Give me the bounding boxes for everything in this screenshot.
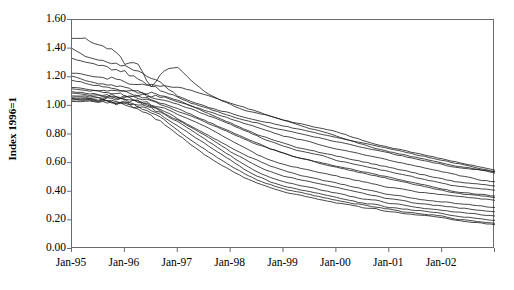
y-tick-label: 0.60 (32, 156, 66, 168)
y-tick-label: 1.60 (32, 13, 66, 25)
series-line (72, 38, 495, 170)
x-axis-tick-labels: Jan-95Jan-96Jan-97Jan-98Jan-99Jan-00Jan-… (0, 252, 514, 274)
x-tick-label: Jan-97 (147, 256, 207, 268)
y-tick-label: 1.00 (32, 99, 66, 111)
y-axis-title-text: Index 1996=1 (6, 97, 18, 160)
x-tick-label: Jan-00 (305, 256, 365, 268)
x-tick-label: Jan-98 (200, 256, 260, 268)
plot-area (71, 19, 494, 248)
y-tick-label: 1.20 (32, 70, 66, 82)
x-tick-label: Jan-99 (253, 256, 313, 268)
series-line (72, 93, 495, 200)
y-axis-title: Index 1996=1 (2, 0, 22, 258)
series-line (72, 101, 495, 225)
series-line (72, 99, 495, 217)
series-line (72, 99, 495, 221)
y-tick-label: 1.40 (32, 42, 66, 54)
x-tick-label: Jan-01 (358, 256, 418, 268)
series-lines (72, 20, 495, 249)
y-tick-label: 0.40 (32, 185, 66, 197)
x-tick-label: Jan-96 (94, 256, 154, 268)
y-tick-label: 0.80 (32, 128, 66, 140)
series-line (72, 73, 495, 171)
series-line (72, 97, 495, 212)
x-tick-label: Jan-95 (41, 256, 101, 268)
series-line (72, 87, 495, 190)
series-line (72, 96, 495, 208)
x-tick-label: Jan-02 (411, 256, 471, 268)
line-chart: Index 1996=1 1.601.401.201.000.800.600.4… (0, 0, 514, 290)
series-line (72, 58, 495, 173)
y-axis-tick-labels: 1.601.401.201.000.800.600.400.200.00 (30, 0, 66, 258)
y-tick-label: 0.20 (32, 213, 66, 225)
